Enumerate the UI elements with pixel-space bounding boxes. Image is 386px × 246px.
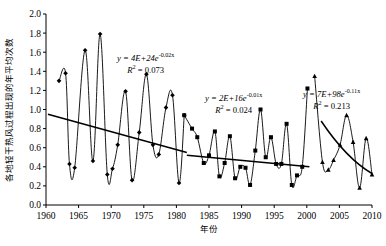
data-point-diamond [72,165,77,170]
data-point-diamond [98,32,103,37]
data-point-diamond [63,71,68,76]
y-tick-label: 1.4 [29,67,41,77]
data-point-square [233,176,237,180]
eq2-exponent: -0.01x [247,92,263,98]
chart-plot-area: 0.00.20.40.60.81.01.21.41.61.82.01960196… [0,0,386,246]
data-point-square [269,135,273,139]
data-point-triangle [320,160,325,164]
data-point-square [195,135,199,139]
data-point-square [248,183,252,187]
trend-equation-3-r2: R2 = 0.213 [303,99,360,111]
data-point-diamond [110,166,115,171]
y-tick-label: 1.6 [29,48,41,58]
data-point-square [238,165,242,169]
data-point-square [244,166,248,170]
data-point-diamond [177,181,182,186]
data-point-square [290,183,294,187]
y-axis-title: 各地轻干热风过程出现的年平均次数 [4,38,14,182]
data-point-triangle [331,158,336,162]
data-point-square [228,134,232,138]
y-tick-label: 0.6 [29,143,41,153]
data-point-triangle [312,74,317,78]
data-point-diamond [83,48,88,53]
data-point-diamond [105,172,110,177]
trend-equation-2-text: y = 2E+16e-0.01x [205,92,262,103]
eq1-r2-value: = 0.073 [136,65,164,75]
eq3-expr: y = 7E+98e [303,89,345,99]
eq3-r2-value: = 0.213 [322,101,350,111]
data-point-triangle [351,140,356,144]
y-tick-label: 2.0 [29,9,41,19]
x-tick-label: 1995 [265,211,284,221]
data-point-triangle [364,136,369,140]
data-point-diamond [156,152,161,157]
trend-equation-1-text: y = 4E+24e-0.02x [117,52,174,63]
data-point-diamond [170,93,175,98]
data-point-diamond [67,162,72,167]
y-tick-label: 0.4 [29,162,41,172]
eq2-expr: y = 2E+16e [205,93,247,103]
trend-equation-2-r2: R2 = 0.024 [205,103,262,115]
data-point-square [182,113,186,117]
x-tick-label: 1960 [37,211,56,221]
trend-equation-1: y = 4E+24e-0.02x R2 = 0.073 [117,52,174,75]
eq2-r2-value: = 0.024 [224,105,252,115]
y-tick-label: 1.2 [29,86,41,96]
eq1-exponent: -0.02x [159,52,175,58]
data-point-triangle [344,113,349,117]
x-tick-label: 1970 [102,211,121,221]
eq3-exponent: -0.11x [345,88,361,94]
data-point-square [190,127,194,131]
y-tick-label: 1.0 [29,105,41,115]
data-point-square [285,122,289,126]
trend-equation-1-r2: R2 = 0.073 [117,63,174,75]
data-point-diamond [164,105,169,110]
x-tick-label: 2010 [363,211,382,221]
x-axis-title: 年份 [200,224,218,234]
y-tick-label: 0.2 [29,181,41,191]
data-point-diamond [115,143,120,148]
x-tick-label: 2000 [297,211,316,221]
y-tick-label: 1.8 [29,29,41,39]
x-tick-label: 1975 [134,211,153,221]
data-point-diamond [57,79,62,84]
x-tick-label: 1985 [200,211,219,221]
data-point-square [217,174,221,178]
x-tick-label: 1965 [69,211,88,221]
trend-equation-2: y = 2E+16e-0.01x R2 = 0.024 [205,92,262,115]
data-point-triangle [357,185,362,189]
data-point-diamond [91,159,96,164]
x-tick-label: 1980 [167,211,186,221]
trend-equation-3-text: y = 7E+98e-0.11x [303,88,360,99]
data-point-diamond [137,130,142,135]
x-tick-label: 2005 [330,211,349,221]
trend-equation-3: y = 7E+98e-0.11x R2 = 0.213 [303,88,360,111]
data-point-square [202,161,206,165]
y-tick-label: 0.8 [29,124,41,134]
data-point-square [253,149,257,153]
data-point-square [295,173,299,177]
x-tick-label: 1990 [232,211,251,221]
data-point-square [223,161,227,165]
eq1-expr: y = 4E+24e [117,53,159,63]
data-point-square [213,129,217,133]
data-point-square [264,155,268,159]
chart-container: 0.00.20.40.60.81.01.21.41.61.82.01960196… [0,0,386,246]
y-tick-label: 0.0 [29,200,41,210]
